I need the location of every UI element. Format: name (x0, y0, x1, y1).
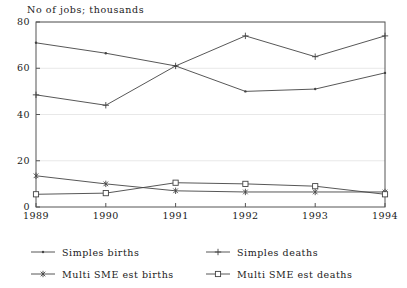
chart-legend: Simples birthsSimples deathsMulti SME es… (0, 242, 407, 288)
series-0 (35, 42, 386, 93)
legend-item-label: Simples births (62, 247, 139, 258)
legend-item[interactable]: Simples deaths (205, 244, 318, 260)
legend-item-label: Multi SME est births (62, 269, 174, 280)
x-tick-label: 1990 (86, 210, 126, 221)
series-1 (33, 33, 388, 109)
y-tick-label: 60 (8, 62, 30, 73)
legend-item-label: Multi SME est deaths (237, 269, 352, 280)
legend-item[interactable]: Simples births (30, 244, 139, 260)
series-3 (33, 180, 387, 197)
x-tick-label: 1994 (365, 210, 405, 221)
plus-icon (205, 245, 231, 259)
y-tick-label: 80 (8, 16, 30, 27)
legend-item-label: Simples deaths (237, 247, 318, 258)
series-2 (34, 173, 388, 196)
open-square-icon (205, 267, 231, 281)
y-tick-label: 40 (8, 109, 30, 120)
y-tick-label: 20 (8, 155, 30, 166)
legend-item[interactable]: Multi SME est births (30, 266, 174, 282)
chart-figure: No of jobs; thousands 020406080 19891990… (0, 0, 407, 288)
x-tick-label: 1991 (156, 210, 196, 221)
grid-lines (36, 22, 385, 161)
x-tick-label: 1992 (225, 210, 265, 221)
asterisk-icon (30, 267, 56, 281)
x-tick-label: 1989 (16, 210, 56, 221)
legend-item[interactable]: Multi SME est deaths (205, 266, 352, 282)
dot-icon (30, 245, 56, 259)
x-tick-label: 1993 (295, 210, 335, 221)
